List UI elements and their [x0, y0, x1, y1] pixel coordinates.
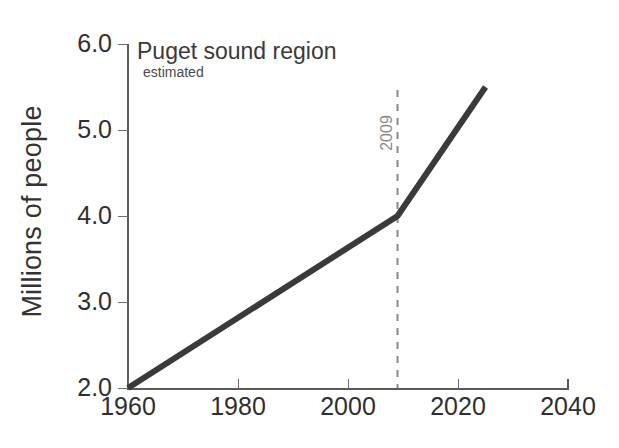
y-axis-label: Millions of people — [17, 42, 48, 382]
x-tick-label-2020: 2020 — [403, 394, 513, 419]
marker-line-label-2009: 2009 — [378, 103, 396, 163]
y-tick-label-6: 6.0 — [56, 31, 112, 56]
population-line-chart: Millions of people 6.0 5.0 4.0 3.0 2.0 1… — [0, 0, 619, 448]
x-axis-end-tick — [567, 379, 569, 390]
x-tick-label-1980: 1980 — [183, 394, 293, 419]
x-tick-2000 — [348, 379, 349, 389]
y-tick-3 — [118, 302, 128, 303]
x-tick-label-1960: 1960 — [73, 394, 183, 419]
x-tick-2020 — [458, 379, 459, 389]
x-tick-label-2040: 2040 — [513, 394, 619, 419]
y-tick-2 — [118, 388, 128, 389]
y-tick-4 — [118, 216, 128, 217]
x-tick-1960 — [128, 379, 129, 389]
y-tick-5 — [118, 130, 128, 131]
chart-subtitle: estimated — [143, 64, 204, 80]
x-tick-label-2000: 2000 — [293, 394, 403, 419]
x-tick-1980 — [238, 379, 239, 389]
y-tick-6 — [118, 44, 128, 45]
chart-title: Puget sound region — [137, 38, 337, 65]
y-tick-label-3: 3.0 — [56, 289, 112, 314]
data-series-line — [128, 87, 486, 388]
y-tick-label-5: 5.0 — [56, 117, 112, 142]
y-tick-label-4: 4.0 — [56, 203, 112, 228]
